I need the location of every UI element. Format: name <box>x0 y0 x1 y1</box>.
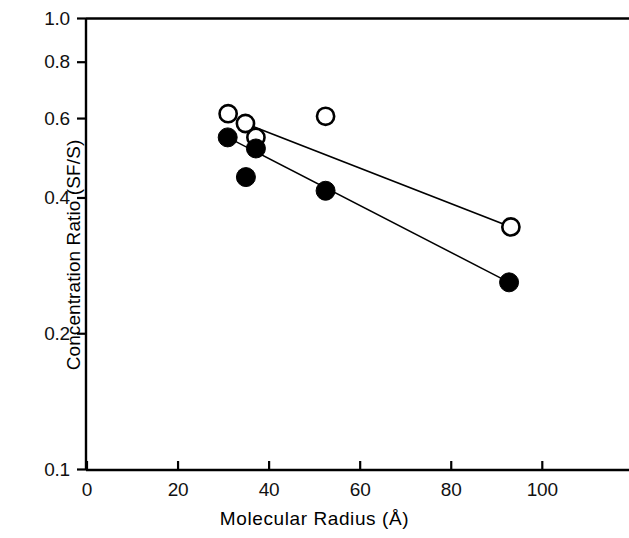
trend-lines <box>228 124 511 283</box>
y-tick-label-0.1: 0.1 <box>0 459 70 481</box>
y-tick-label-1.0: 1.0 <box>0 8 70 30</box>
data-point-open-3 <box>317 108 334 125</box>
y-tick-label-0.2: 0.2 <box>0 323 70 345</box>
data-point-filled-1 <box>236 168 255 187</box>
data-point-filled-3 <box>316 181 335 200</box>
data-point-filled-0 <box>218 128 237 147</box>
axes <box>86 19 629 471</box>
x-axis-title: Molecular Radius (Å) <box>0 508 629 530</box>
y-tick-label-0.4: 0.4 <box>0 187 70 209</box>
x-tick-label-80: 80 <box>441 479 462 501</box>
x-tick-label-20: 20 <box>168 479 189 501</box>
data-point-filled-2 <box>246 139 265 158</box>
plot-canvas <box>0 0 629 538</box>
axis-ticks <box>77 19 542 471</box>
data-point-open-4 <box>502 218 519 235</box>
data-point-filled-4 <box>500 273 519 292</box>
x-tick-label-60: 60 <box>350 479 371 501</box>
y-tick-label-0.6: 0.6 <box>0 108 70 130</box>
chart-figure: 1.00.80.60.40.20.1 020406080100 Concentr… <box>0 0 629 538</box>
y-tick-label-0.8: 0.8 <box>0 51 70 73</box>
trend-line-open-circles <box>245 124 510 227</box>
x-tick-label-100: 100 <box>527 479 558 501</box>
data-point-open-0 <box>220 105 237 122</box>
y-axis-title: Concentration Ratio (SF/S) <box>63 95 85 415</box>
x-tick-label-0: 0 <box>82 479 92 501</box>
x-tick-label-40: 40 <box>259 479 280 501</box>
